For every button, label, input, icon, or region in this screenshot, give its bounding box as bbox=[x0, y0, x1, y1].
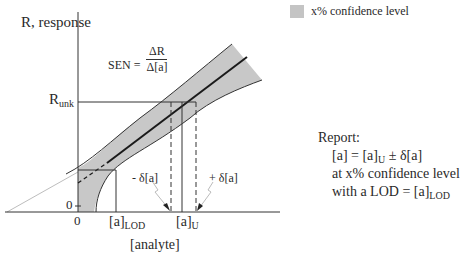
equation-denominator: Δ[a] bbox=[146, 60, 167, 75]
x-axis-label: [analyte] bbox=[130, 237, 180, 253]
equation-numerator: ΔR bbox=[146, 44, 167, 60]
report-line-3: with a LOD = [a]LOD bbox=[318, 183, 460, 201]
r-unk-label: Runk bbox=[49, 91, 74, 108]
sensitivity-equation: SEN = ΔR Δ[a] bbox=[108, 44, 167, 75]
plus-delta-label: + δ[a] bbox=[209, 171, 238, 186]
equation-lhs: SEN = bbox=[108, 58, 140, 72]
a-lod-label: [a]LOD bbox=[109, 214, 145, 230]
legend-swatch bbox=[290, 5, 304, 18]
y-zero-label: 0 bbox=[66, 197, 73, 213]
minus-delta-arrowhead bbox=[163, 203, 170, 211]
confidence-band bbox=[78, 44, 262, 212]
y-axis-label: R, response bbox=[21, 14, 91, 31]
report-title: Report: bbox=[318, 129, 460, 147]
x-zero-label: 0 bbox=[74, 213, 81, 229]
report-line-1: [a] = [a]U ± δ[a] bbox=[318, 147, 460, 165]
legend-label: x% confidence level bbox=[311, 4, 409, 19]
report-line-2: at x% confidence level bbox=[318, 165, 460, 183]
report-block: Report: [a] = [a]U ± δ[a] at x% confiden… bbox=[318, 129, 460, 201]
a-u-label: [a]U bbox=[176, 214, 199, 230]
minus-delta-label: - δ[a] bbox=[132, 171, 158, 186]
